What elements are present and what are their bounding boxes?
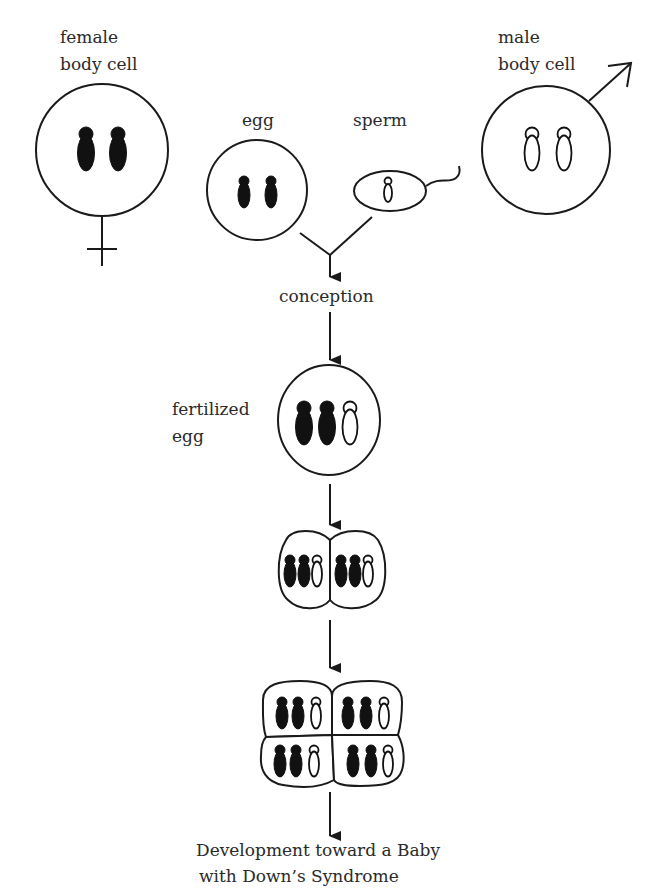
fertilized-label-line1: fertilized bbox=[172, 399, 250, 419]
chromosome-light bbox=[525, 128, 540, 171]
chromosome-dark bbox=[342, 697, 354, 729]
female-body-cell: female body cell bbox=[36, 27, 168, 266]
chromosome-dark bbox=[360, 697, 372, 729]
male-symbol-icon bbox=[589, 63, 631, 101]
chromosome-light bbox=[311, 698, 321, 729]
chromosome-dark bbox=[347, 745, 359, 777]
sperm-tail bbox=[426, 166, 460, 186]
chromosome-light bbox=[309, 746, 319, 777]
chromosome-dark bbox=[365, 745, 377, 777]
female-label-line2: body cell bbox=[60, 54, 137, 74]
female-cell-circle bbox=[36, 84, 168, 216]
chromosome-dark bbox=[274, 745, 286, 777]
male-label-line2: body cell bbox=[498, 54, 575, 74]
chromosome-dark bbox=[296, 401, 313, 445]
outcome-label-line1: Development toward a Baby bbox=[196, 840, 440, 860]
chromosome-dark bbox=[238, 176, 250, 208]
chromosome-dark bbox=[276, 697, 288, 729]
chromosome-dark bbox=[335, 555, 347, 587]
chromosome-dark bbox=[319, 401, 336, 445]
egg-label: egg bbox=[242, 110, 274, 130]
chromosome-dark bbox=[349, 555, 361, 587]
chromosome-light bbox=[383, 746, 393, 777]
fertilized-label-line2: egg bbox=[172, 426, 204, 446]
chromosome-dark bbox=[110, 127, 127, 171]
chromosome-light bbox=[379, 698, 389, 729]
male-label-line1: male bbox=[498, 27, 540, 47]
chromosome-dark bbox=[292, 697, 304, 729]
fertilized-egg-cell: fertilized egg bbox=[172, 365, 380, 475]
conception-label: conception bbox=[279, 286, 374, 306]
male-body-cell: male body cell bbox=[482, 27, 631, 214]
chromosome-light bbox=[343, 402, 358, 445]
egg-circle bbox=[207, 140, 307, 240]
male-cell-circle bbox=[482, 86, 610, 214]
female-symbol-icon bbox=[87, 216, 117, 266]
chromosome-light bbox=[312, 556, 322, 587]
chromosome-dark bbox=[284, 555, 296, 587]
outcome-label-line2: with Down’s Syndrome bbox=[199, 866, 399, 886]
female-label-line1: female bbox=[60, 27, 118, 47]
egg-cell: egg bbox=[207, 110, 307, 240]
chromosome-light bbox=[384, 178, 392, 203]
sperm-cell: sperm bbox=[353, 110, 460, 211]
chromosome-dark bbox=[298, 555, 310, 587]
chromosome-dark bbox=[78, 127, 95, 171]
down-syndrome-diagram: female body cell male body cell egg sper… bbox=[0, 0, 662, 896]
sperm-label: sperm bbox=[353, 110, 407, 130]
two-cell-stage bbox=[279, 531, 386, 608]
chromosome-dark bbox=[265, 176, 277, 208]
chromosome-light bbox=[363, 556, 373, 587]
conception-connector bbox=[300, 217, 372, 277]
four-cell-stage bbox=[261, 681, 404, 787]
chromosome-light bbox=[557, 128, 572, 171]
chromosome-dark bbox=[290, 745, 302, 777]
